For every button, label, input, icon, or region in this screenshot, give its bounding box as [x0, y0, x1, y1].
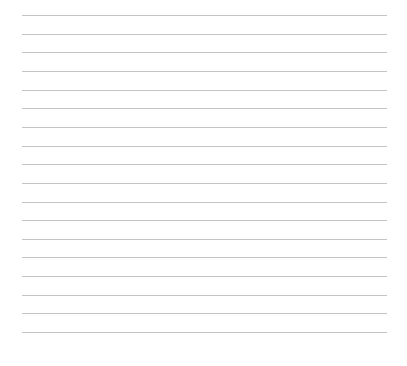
rule-line: [22, 52, 387, 53]
rule-line: [22, 239, 387, 240]
rule-line: [22, 313, 387, 314]
lined-page: [0, 0, 407, 366]
rule-line: [22, 164, 387, 165]
rule-line: [22, 295, 387, 296]
rule-line: [22, 220, 387, 221]
rule-line: [22, 276, 387, 277]
rule-line: [22, 257, 387, 258]
rule-line: [22, 146, 387, 147]
rule-line: [22, 90, 387, 91]
rule-line: [22, 71, 387, 72]
rule-line: [22, 15, 387, 16]
rule-line: [22, 34, 387, 35]
rule-line: [22, 127, 387, 128]
rule-line: [22, 202, 387, 203]
rule-line: [22, 108, 387, 109]
rule-line: [22, 183, 387, 184]
rule-line: [22, 332, 387, 333]
